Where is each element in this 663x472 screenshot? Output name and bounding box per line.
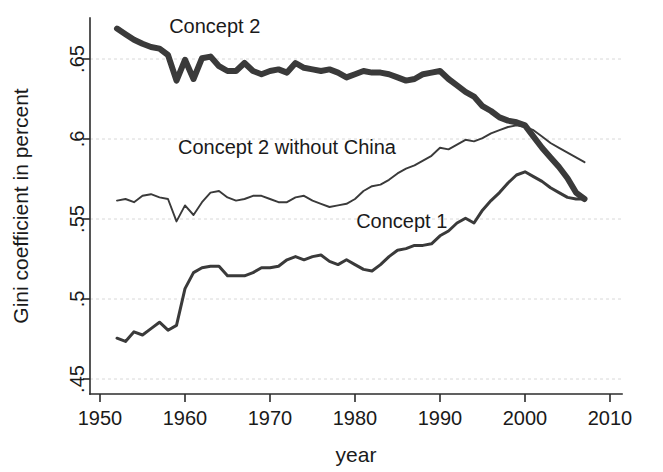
series-group [117, 29, 585, 342]
x-tick-label: 1950 [78, 407, 123, 429]
y-axis-title: Gini coefficient in percent [9, 88, 32, 324]
x-tick-label: 1970 [248, 407, 293, 429]
x-axis-title: year [336, 443, 377, 466]
series-line [117, 29, 585, 199]
series-annotation-label: Concept 1 [356, 210, 447, 232]
x-tick-label: 2010 [588, 407, 633, 429]
y-tick-label: .65 [66, 45, 88, 73]
series-line [117, 172, 585, 342]
series-annotation-label: Concept 2 [169, 15, 260, 37]
y-tick-label: .5 [66, 291, 88, 308]
x-tick-label: 1960 [163, 407, 208, 429]
gini-coefficient-line-chart: .45.5.55.6.65 19501960197019801990200020… [0, 0, 663, 472]
y-tick-label: .6 [66, 131, 88, 148]
series-annotation-label: Concept 2 without China [178, 136, 397, 158]
y-tick-label: .45 [66, 365, 88, 393]
chart-container: .45.5.55.6.65 19501960197019801990200020… [0, 0, 663, 472]
x-tick-group: 1950196019701980199020002010 [78, 394, 633, 429]
x-tick-label: 1980 [333, 407, 378, 429]
x-tick-label: 2000 [503, 407, 548, 429]
y-tick-group: .45.5.55.6.65 [66, 45, 90, 393]
y-axis: .45.5.55.6.65 [66, 18, 90, 394]
y-tick-label: .55 [66, 205, 88, 233]
x-tick-label: 1990 [418, 407, 463, 429]
x-axis: 1950196019701980199020002010 [78, 394, 633, 429]
